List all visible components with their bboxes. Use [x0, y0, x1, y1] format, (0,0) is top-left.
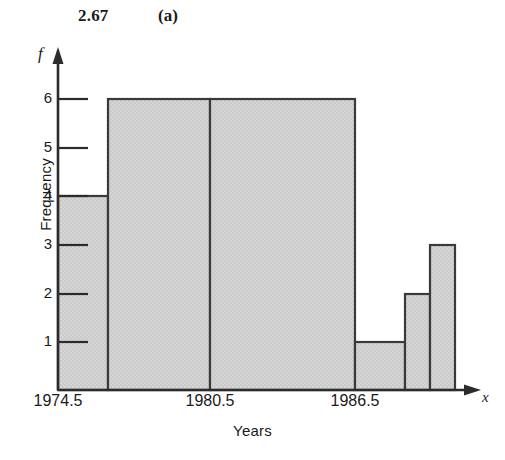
bar-2 [108, 99, 210, 390]
histogram-figure: 2.67 (a) Frequency f x 6 5 4 3 2 1 1974.… [0, 0, 505, 460]
bars-group [58, 99, 455, 390]
bar-6 [430, 245, 455, 390]
histogram-svg [0, 0, 505, 460]
bar-4 [355, 342, 405, 390]
bar-5 [405, 294, 430, 390]
bar-3 [210, 99, 355, 390]
plot-area: Frequency f x 6 5 4 3 2 1 1974.5 1980.5 … [0, 0, 505, 460]
